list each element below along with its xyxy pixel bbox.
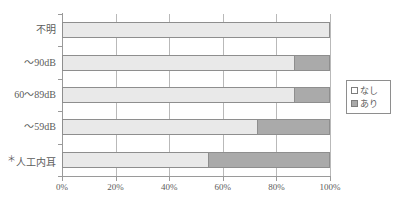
x-tick-label: 100%	[320, 182, 341, 192]
category-label-text: 人工内耳	[16, 157, 56, 168]
x-tick-label: 0%	[56, 182, 68, 192]
bar-segment-none	[62, 119, 258, 135]
category-label: ＊人工内耳	[0, 154, 56, 168]
x-tick-label: 20%	[107, 182, 124, 192]
bar-segment-none	[62, 55, 295, 71]
y-tick-mark	[58, 176, 62, 177]
legend-swatch-yes-icon	[351, 100, 358, 107]
x-tick-label: 80%	[268, 182, 285, 192]
bar-segment-none	[62, 22, 330, 38]
bar-row	[62, 119, 330, 135]
y-tick-mark	[58, 79, 62, 80]
legend-item-none: なし	[351, 84, 387, 97]
stacked-bar-chart: 0%20%40%60%80%100% 不明～90dB60～89dB～59dB＊人…	[0, 0, 397, 211]
x-tick-label: 60%	[215, 182, 232, 192]
bar-segment-none	[62, 152, 209, 168]
y-tick-mark	[58, 46, 62, 47]
footnote-asterisk: ＊	[7, 154, 16, 164]
chart-legend: なし あり	[346, 80, 391, 114]
x-axis-line	[62, 176, 331, 177]
category-label-text: ～90dB	[24, 57, 56, 68]
category-label-text: ～59dB	[24, 121, 56, 132]
x-tick-mark	[223, 177, 224, 181]
bar-segment-yes	[294, 87, 330, 103]
x-tick-mark	[169, 177, 170, 181]
legend-swatch-none-icon	[351, 87, 358, 94]
gridline	[330, 14, 331, 176]
y-tick-mark	[58, 14, 62, 15]
x-tick-mark	[276, 177, 277, 181]
bar-segment-yes	[208, 152, 330, 168]
x-tick-mark	[62, 177, 63, 181]
bar-segment-none	[62, 87, 295, 103]
x-tick-mark	[116, 177, 117, 181]
category-label: 不明	[0, 24, 56, 35]
bar-segment-yes	[294, 55, 330, 71]
bar-row	[62, 87, 330, 103]
bar-row	[62, 22, 330, 38]
bar-row	[62, 152, 330, 168]
category-label: ～59dB	[0, 121, 56, 132]
x-tick-label: 40%	[161, 182, 178, 192]
category-label: ～90dB	[0, 57, 56, 68]
category-label: 60～89dB	[0, 89, 56, 100]
bar-row	[62, 55, 330, 71]
legend-label-yes: あり	[360, 99, 378, 109]
y-tick-mark	[58, 111, 62, 112]
legend-item-yes: あり	[351, 97, 387, 110]
category-label-text: 60～89dB	[14, 89, 56, 100]
bar-segment-yes	[257, 119, 330, 135]
y-tick-mark	[58, 144, 62, 145]
legend-label-none: なし	[360, 86, 378, 96]
x-tick-mark	[330, 177, 331, 181]
category-label-text: 不明	[36, 24, 56, 35]
